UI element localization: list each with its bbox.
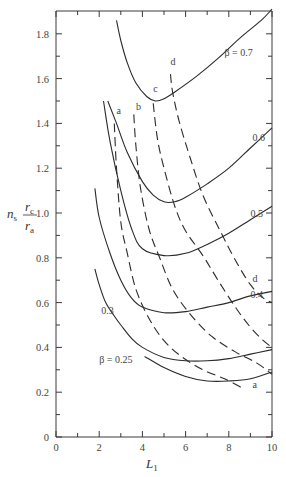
x-axis-title: L1 bbox=[145, 456, 158, 473]
curve-d bbox=[171, 74, 273, 303]
curve--025 bbox=[145, 356, 272, 381]
axis-ticks bbox=[56, 11, 272, 437]
y-tick-label: 0 bbox=[44, 432, 49, 443]
curve-label: a bbox=[116, 105, 121, 116]
x-tick-label: 4 bbox=[140, 442, 146, 453]
axes-frame bbox=[56, 11, 272, 437]
curve-label: 0.6 bbox=[253, 132, 266, 143]
y-tick-label: 1.4 bbox=[36, 118, 50, 129]
chart: 024681000.20.40.60.81.01.21.41.61.8 β = … bbox=[0, 0, 286, 477]
curve-label: 0.3 bbox=[101, 305, 114, 316]
y-tick-label: 1.2 bbox=[36, 163, 49, 174]
y-tick-label: 0.4 bbox=[36, 342, 50, 353]
curve-label: d bbox=[253, 273, 258, 284]
x-tick-label: 6 bbox=[183, 442, 188, 453]
curve--04 bbox=[95, 188, 272, 313]
curve-label: d bbox=[170, 56, 175, 67]
curve-label: c bbox=[153, 83, 158, 94]
y-tick-label: 0.2 bbox=[36, 387, 49, 398]
y-tick-label: 0.6 bbox=[36, 298, 49, 309]
x-tick-label: 10 bbox=[267, 442, 278, 453]
svg-text:ra: ra bbox=[25, 218, 34, 235]
plot-frame bbox=[56, 11, 272, 437]
y-tick-label: 0.8 bbox=[36, 253, 49, 264]
curve-label: 0.4 bbox=[250, 289, 263, 300]
curve-label: a bbox=[253, 379, 258, 390]
curves bbox=[95, 9, 272, 388]
curve-labels: β = 0.70.60.50.40.3β = 0.25abcdda bbox=[99, 47, 265, 390]
curve-label: β = 0.25 bbox=[99, 354, 132, 365]
axis-titles: L1 ns rc ra bbox=[7, 199, 158, 473]
curve--03 bbox=[95, 269, 272, 361]
curve--05 bbox=[104, 101, 273, 256]
curve-label: 0.5 bbox=[250, 208, 263, 219]
x-tick-label: 0 bbox=[53, 442, 58, 453]
curve-b bbox=[134, 114, 272, 374]
svg-text:ns: ns bbox=[7, 206, 18, 223]
x-tick-label: 8 bbox=[226, 442, 231, 453]
x-tick-label: 2 bbox=[97, 442, 102, 453]
y-tick-label: 1.0 bbox=[36, 208, 49, 219]
svg-text:rc: rc bbox=[25, 199, 34, 216]
y-tick-label: 1.8 bbox=[36, 29, 49, 40]
curve-a bbox=[114, 123, 242, 387]
curve-label: β = 0.7 bbox=[224, 47, 252, 58]
y-axis-title: ns rc ra bbox=[7, 199, 37, 235]
curve-label: b bbox=[136, 101, 141, 112]
y-tick-label: 1.6 bbox=[36, 74, 49, 85]
curve--06 bbox=[108, 101, 272, 202]
